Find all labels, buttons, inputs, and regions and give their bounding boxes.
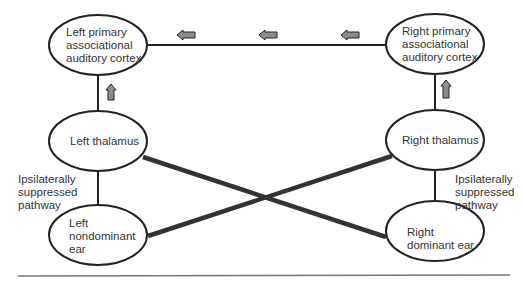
label-line: ear [69, 243, 136, 256]
label-line: suppressed [18, 186, 77, 199]
label-line: pathway [18, 199, 77, 212]
label-line: Ipsilaterally [18, 173, 77, 186]
label-line: auditory cortex [66, 52, 141, 65]
label-line: dominant ear [407, 239, 474, 252]
left-pathway-annotation: Ipsilaterally suppressed pathway [18, 173, 77, 212]
label-line: Ipsilaterally [455, 173, 514, 186]
left-cortex-label: Left primary associational auditory cort… [66, 26, 141, 65]
label-line: associational [66, 39, 141, 52]
bottom-rule [18, 275, 510, 276]
label-line: Right [407, 226, 474, 239]
right-thalamus-label: Right thalamus [402, 134, 479, 147]
label-line: nondominant [69, 230, 136, 243]
right-cortex-label: Right primary associational auditory cor… [402, 25, 477, 64]
label-line: auditory cortex [402, 51, 477, 64]
up-arrow-icon [106, 84, 116, 100]
left-arrow-icon [259, 30, 277, 40]
right-pathway-annotation: Ipsilaterally suppressed pathway [455, 173, 514, 212]
label-line: pathway [455, 199, 514, 212]
label-line: Right primary [402, 25, 477, 38]
up-arrow-icon [441, 80, 451, 98]
right-ear-label: Right dominant ear [407, 226, 474, 252]
label-line: suppressed [455, 186, 514, 199]
label-line: associational [402, 38, 477, 51]
left-arrow-icon [341, 30, 359, 40]
left-thalamus-label: Left thalamus [70, 135, 139, 148]
left-arrow-icon [177, 30, 195, 40]
left-ear-to-right-thalamus-pathway [148, 156, 392, 236]
label-line: Left [69, 217, 136, 230]
label-line: Left primary [66, 26, 141, 39]
left-ear-label: Left nondominant ear [69, 217, 136, 256]
